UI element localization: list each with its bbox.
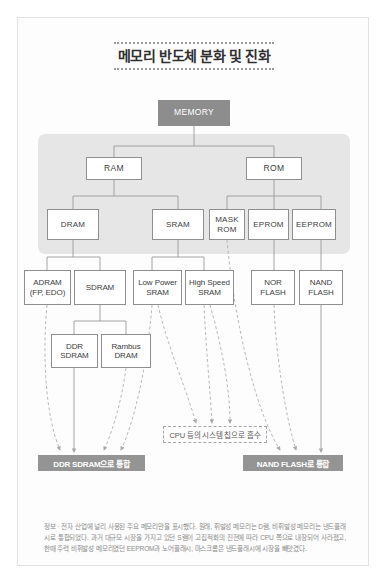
node-eeprom[interactable]: EEPROM: [292, 209, 336, 240]
node-label: RambusDRAM: [111, 342, 140, 361]
node-memory[interactable]: MEMORY: [158, 100, 230, 126]
node-sdram[interactable]: SDRAM: [74, 270, 126, 305]
banner-ddr-sdram-consolidation: DDR SDRAM으로 통합: [38, 455, 145, 471]
node-ram[interactable]: RAM: [86, 157, 142, 180]
node-rambus-dram[interactable]: RambusDRAM: [101, 334, 151, 368]
banner-nand-flash-consolidation: NAND FLASH로 통합: [243, 455, 343, 471]
node-label: DDRSDRAM: [60, 342, 88, 361]
node-label: SRAM: [166, 220, 190, 230]
node-label: MASKROM: [215, 215, 238, 234]
banner-label: DDR SDRAM으로 통합: [53, 458, 129, 469]
node-label: RAM: [104, 164, 124, 174]
node-mask-rom[interactable]: MASKROM: [209, 209, 245, 240]
cpu-absorption-callout: CPU 등의 시스템 칩으로 흡수: [163, 426, 267, 443]
node-label: ROM: [263, 164, 284, 174]
node-label: SDRAM: [86, 283, 114, 293]
node-label: EPROM: [253, 220, 283, 230]
node-nor-flash[interactable]: NORFLASH: [251, 270, 295, 305]
diagram-card: 메모리 반도체 분화 및 진화: [17, 17, 369, 566]
node-nand-flash[interactable]: NANDFLASH: [299, 270, 343, 305]
node-sram[interactable]: SRAM: [152, 209, 204, 240]
node-label: DRAM: [61, 220, 85, 230]
node-low-power-sram[interactable]: Low PowerSRAM: [133, 270, 182, 305]
node-dram[interactable]: DRAM: [47, 209, 99, 240]
callout-label: CPU 등의 시스템 칩으로 흡수: [170, 429, 261, 440]
node-label: High SpeedSRAM: [189, 278, 230, 297]
node-label: MEMORY: [174, 108, 214, 118]
node-label: ADRAM(FP, EDO): [30, 278, 65, 297]
node-high-speed-sram[interactable]: High SpeedSRAM: [185, 270, 234, 305]
node-label: NANDFLASH: [308, 278, 333, 297]
node-ddr-sdram[interactable]: DDRSDRAM: [51, 334, 98, 368]
node-label: EEPROM: [296, 220, 332, 230]
node-eprom[interactable]: EPROM: [248, 209, 289, 240]
node-rom[interactable]: ROM: [246, 157, 302, 180]
infographic-page: 메모리 반도체 분화 및 진화: [0, 0, 386, 583]
node-label: Low PowerSRAM: [138, 278, 177, 297]
node-label: NORFLASH: [260, 278, 285, 297]
banner-label: NAND FLASH로 통합: [257, 458, 329, 469]
node-adram[interactable]: ADRAM(FP, EDO): [24, 270, 71, 305]
